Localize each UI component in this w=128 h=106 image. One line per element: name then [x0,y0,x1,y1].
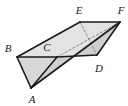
prism-drawing [0,0,128,106]
vertex-label-d: D [95,63,103,74]
vertex-label-a: A [29,94,36,105]
vertex-label-e: E [76,5,83,16]
vertex-label-b: B [5,43,12,54]
vertex-label-f: F [118,5,125,16]
geometry-figure: EFBCDA [0,0,128,106]
vertex-label-c: C [43,42,50,53]
